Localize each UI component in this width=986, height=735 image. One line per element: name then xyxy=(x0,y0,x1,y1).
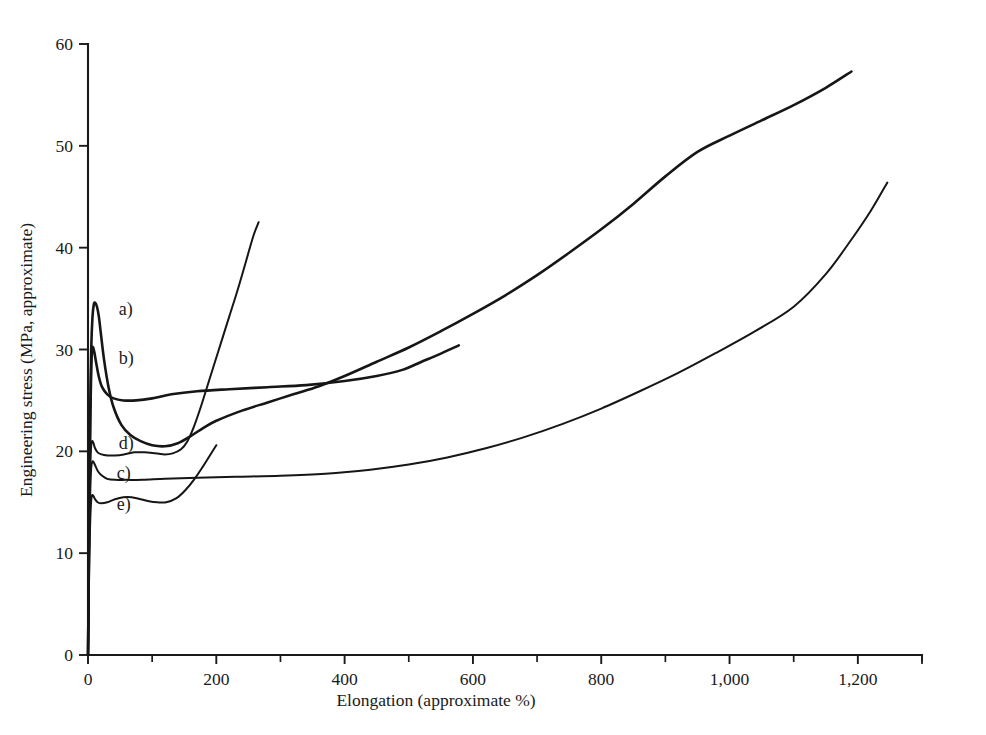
curve-d xyxy=(88,222,259,655)
y-tick-label: 20 xyxy=(56,441,74,461)
x-tick-label: 200 xyxy=(203,669,230,689)
y-tick-label: 10 xyxy=(56,543,74,563)
y-tick-label: 0 xyxy=(64,645,73,665)
x-tick-label: 600 xyxy=(460,669,487,689)
data-curves-group xyxy=(88,72,887,656)
curve-annotation-labels: a)b)d)c)e) xyxy=(117,299,134,516)
y-axis-ticks xyxy=(79,44,88,655)
x-tick-label: 800 xyxy=(588,669,615,689)
axes-group xyxy=(79,44,922,664)
curve-label-b: b) xyxy=(119,348,134,369)
y-axis-tick-labels: 0102030405060 xyxy=(56,34,74,665)
x-axis-title: Elongation (approximate %) xyxy=(336,690,535,710)
curve-label-c: c) xyxy=(117,463,131,484)
curve-label-e: e) xyxy=(117,494,131,515)
curve-label-a: a) xyxy=(119,299,133,320)
x-axis-tick-labels: 02004006008001,0001,200 xyxy=(84,669,878,689)
curve-c xyxy=(88,182,887,655)
y-tick-label: 60 xyxy=(56,34,74,54)
y-tick-label: 30 xyxy=(56,340,74,360)
curve-label-d: d) xyxy=(119,433,134,454)
x-tick-label: 1,200 xyxy=(838,669,878,689)
stress-elongation-figure: 0102030405060 02004006008001,0001,200 a)… xyxy=(0,0,986,735)
x-axis-ticks xyxy=(88,655,922,664)
curve-a xyxy=(88,72,851,656)
chart-canvas: 0102030405060 02004006008001,0001,200 a)… xyxy=(0,0,986,735)
x-tick-label: 0 xyxy=(84,669,93,689)
x-tick-label: 1,000 xyxy=(710,669,750,689)
y-tick-label: 40 xyxy=(56,238,74,258)
y-tick-label: 50 xyxy=(56,136,74,156)
y-axis-title: Engineering stress (MPa, approximate) xyxy=(16,223,36,497)
x-tick-label: 400 xyxy=(331,669,358,689)
curve-e xyxy=(88,445,216,655)
